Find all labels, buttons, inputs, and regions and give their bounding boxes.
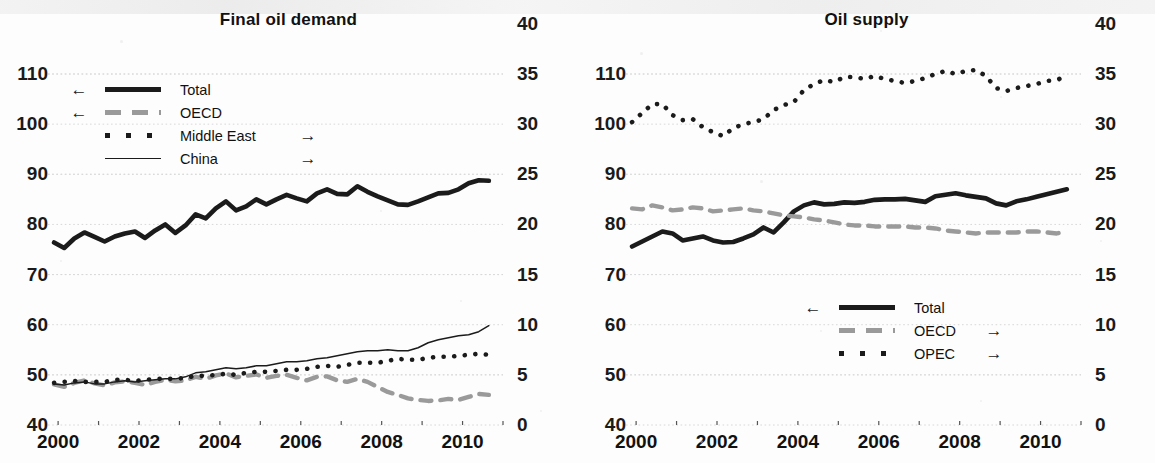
series-line-oecd (632, 205, 1067, 233)
y-axis-right-tick-label: 40 (1095, 14, 1141, 33)
scan-speck (980, 400, 982, 402)
y-axis-left-tick-label: 60 (578, 315, 626, 334)
legend-left: ←Total←OECDMiddle East→China→ (62, 78, 328, 170)
scan-speck (380, 210, 382, 212)
x-axis-tick-label: 2008 (939, 431, 981, 453)
y-axis-right-tick-label: 0 (517, 415, 563, 434)
legend-label: OECD (904, 323, 974, 339)
plot-area-right: 1101009080706050404035302520151050200020… (578, 0, 1155, 463)
x-axis-tick-label: 2010 (1019, 431, 1061, 453)
x-axis-tick-label: 2006 (280, 431, 322, 453)
y-axis-right-tick-label: 20 (1095, 214, 1141, 233)
y-axis-right-tick-label: 15 (1095, 265, 1141, 284)
legend-item-opec: OPEC→ (796, 342, 1014, 365)
y-axis-left-tick-label: 90 (578, 164, 626, 183)
scan-speck (540, 410, 542, 412)
arrow-right-icon: → (974, 322, 1014, 339)
y-axis-right-tick-label: 5 (517, 365, 563, 384)
arrow-right-icon: → (288, 127, 328, 144)
y-axis-right-tick-label: 30 (1095, 114, 1141, 133)
y-axis-left-tick-label: 70 (578, 265, 626, 284)
scan-speck (210, 150, 212, 152)
scan-speck (1000, 96, 1002, 98)
legend-key-swatch (96, 110, 170, 115)
legend-right: ←TotalOECD→OPEC→ (796, 296, 1014, 365)
panel-final-oil-demand: Final oil demand 11010090807060504040353… (0, 0, 577, 463)
legend-line-style-solid-thin (105, 158, 161, 160)
legend-key-swatch (830, 328, 904, 333)
x-axis-tick-label: 2010 (441, 431, 483, 453)
legend-item-total: ←Total (796, 296, 1014, 319)
y-axis-right-tick-label: 30 (517, 114, 563, 133)
legend-key-swatch (830, 351, 904, 356)
x-axis-tick-label: 2006 (858, 431, 900, 453)
y-axis-left-tick-label: 80 (0, 214, 48, 233)
y-axis-left-tick-label: 80 (578, 214, 626, 233)
scan-speck (640, 52, 643, 55)
y-axis-right-tick-label: 0 (1095, 415, 1141, 434)
y-axis-left-tick-label: 70 (0, 265, 48, 284)
legend-key-swatch (96, 133, 170, 138)
legend-label: OPEC (904, 346, 974, 362)
legend-item-middle-east: Middle East→ (62, 124, 328, 147)
legend-key-swatch (830, 305, 904, 310)
arrow-left-icon: ← (62, 104, 96, 121)
series-line-total (54, 180, 489, 248)
legend-key-swatch (96, 87, 170, 92)
legend-label: Total (904, 300, 974, 316)
y-axis-right-tick-label: 35 (517, 64, 563, 83)
x-axis-tick-label: 2008 (361, 431, 403, 453)
scan-speck (460, 300, 462, 302)
y-axis-right-tick-label: 15 (517, 265, 563, 284)
chart-svg (578, 0, 1155, 463)
legend-line-style-dotted (839, 351, 895, 356)
legend-label: China (170, 151, 288, 167)
scan-speck (1100, 240, 1102, 242)
series-line-total (632, 189, 1067, 246)
legend-key-swatch (96, 158, 170, 160)
x-axis-tick-label: 2004 (199, 431, 241, 453)
legend-line-style-dashed (105, 110, 161, 115)
y-axis-left-tick-label: 110 (578, 64, 626, 83)
y-axis-right-tick-label: 5 (1095, 365, 1141, 384)
y-axis-right-tick-label: 35 (1095, 64, 1141, 83)
plot-area-left: 1101009080706050404035302520151050200020… (0, 0, 577, 463)
y-axis-left-tick-label: 90 (0, 164, 48, 183)
scan-speck (820, 330, 822, 332)
scan-speck (60, 260, 62, 262)
legend-line-style-solid-thick (839, 305, 895, 310)
y-axis-left-tick-label: 50 (578, 365, 626, 384)
arrow-left-icon: ← (796, 299, 830, 316)
panel-oil-supply: Oil supply 11010090807060504040353025201… (578, 0, 1155, 463)
chart-svg (0, 0, 577, 463)
legend-label: Middle East (170, 128, 288, 144)
legend-line-style-solid-thick (105, 87, 161, 92)
y-axis-right-tick-label: 40 (517, 14, 563, 33)
arrow-right-icon: → (288, 150, 328, 167)
y-axis-left-tick-label: 50 (0, 365, 48, 384)
series-line-opec (632, 70, 1067, 136)
legend-label: Total (170, 82, 288, 98)
y-axis-left-tick-label: 100 (0, 114, 48, 133)
scan-speck (120, 40, 123, 43)
y-axis-right-tick-label: 10 (1095, 315, 1141, 334)
figure-page: Final oil demand 11010090807060504040353… (0, 0, 1155, 463)
y-axis-left-tick-label: 110 (0, 64, 48, 83)
x-axis-tick-label: 2004 (777, 431, 819, 453)
scan-speck (150, 420, 152, 422)
arrow-left-icon: ← (62, 81, 96, 98)
y-axis-right-tick-label: 10 (517, 315, 563, 334)
y-axis-right-tick-label: 25 (517, 164, 563, 183)
y-axis-right-tick-label: 25 (1095, 164, 1141, 183)
arrow-right-icon: → (974, 345, 1014, 362)
legend-line-style-dashed (839, 328, 895, 333)
scan-speck (300, 26, 302, 28)
y-axis-right-tick-label: 20 (517, 214, 563, 233)
scan-speck (880, 30, 882, 32)
x-axis-tick-label: 2002 (118, 431, 160, 453)
scan-speck (760, 180, 763, 183)
legend-item-oecd: OECD→ (796, 319, 1014, 342)
series-line-oecd (54, 373, 489, 401)
legend-item-oecd: ←OECD (62, 101, 328, 124)
scan-speck (700, 440, 703, 443)
